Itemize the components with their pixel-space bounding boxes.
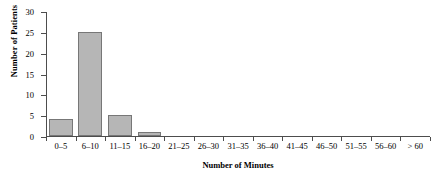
bar — [49, 119, 73, 136]
bar — [108, 115, 132, 136]
y-tick-label: 30 — [26, 7, 35, 17]
y-tick-label: 20 — [26, 49, 35, 59]
x-tick — [223, 137, 224, 141]
y-tick-label: 0 — [30, 132, 34, 142]
y-tick: 25 — [41, 33, 47, 34]
y-tick: 30 — [41, 12, 47, 13]
x-tick-label: 26–30 — [198, 141, 219, 151]
x-tick-label: > 60 — [408, 141, 423, 151]
x-tick — [253, 137, 254, 141]
x-tick-label: 0–5 — [54, 141, 67, 151]
x-tick — [430, 137, 431, 141]
x-tick — [76, 137, 77, 141]
y-tick: 10 — [41, 95, 47, 96]
x-tick — [135, 137, 136, 141]
x-tick-label: 36–40 — [257, 141, 278, 151]
x-tick — [164, 137, 165, 141]
x-tick-label: 46–50 — [316, 141, 337, 151]
y-tick: 15 — [41, 75, 47, 76]
x-tick-label: 11–15 — [109, 141, 130, 151]
x-axis-line — [46, 136, 430, 137]
x-tick — [194, 137, 195, 141]
x-tick — [46, 137, 47, 141]
x-tick-label: 51–55 — [346, 141, 367, 151]
x-tick — [312, 137, 313, 141]
y-axis-title: Number of Patients — [9, 0, 19, 101]
x-tick-label: 16–20 — [139, 141, 160, 151]
bar — [78, 32, 102, 136]
bar — [138, 132, 162, 136]
y-tick-label: 25 — [26, 28, 35, 38]
x-tick — [341, 137, 342, 141]
y-tick: 20 — [41, 54, 47, 55]
y-tick-label: 10 — [26, 90, 35, 100]
x-tick-label: 6–10 — [82, 141, 99, 151]
x-tick-label: 21–25 — [168, 141, 189, 151]
x-tick-label: 56–60 — [375, 141, 396, 151]
x-tick — [400, 137, 401, 141]
y-tick-label: 5 — [30, 111, 34, 121]
x-tick-label: 41–45 — [286, 141, 307, 151]
x-tick — [105, 137, 106, 141]
histogram-chart: Number of Patients 051015202530 0–56–101… — [0, 0, 443, 185]
x-tick-label: 31–35 — [227, 141, 248, 151]
x-tick — [282, 137, 283, 141]
plot-area: 051015202530 0–56–1011–1516–2021–2526–30… — [46, 12, 430, 137]
y-tick-label: 15 — [26, 70, 35, 80]
y-tick: 5 — [41, 116, 47, 117]
x-axis-title: Number of Minutes — [46, 160, 430, 170]
x-tick — [371, 137, 372, 141]
